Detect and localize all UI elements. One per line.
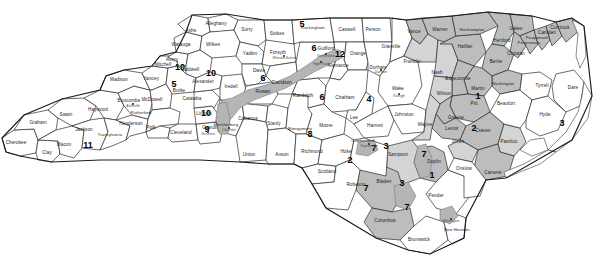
county-label: Vance [407,30,420,35]
county-label: Madison [110,78,128,83]
county-label: Warren [432,28,448,33]
city-marker-dot [132,103,134,105]
county-label: Duplin [427,160,441,165]
city-label: Raleigh [393,95,405,98]
district-number: 6 [311,44,316,53]
district-number: 1 [429,171,434,180]
city-label: Wilmington [443,220,460,223]
city-label: High Point [313,63,329,66]
county-label: Burke [173,89,186,94]
district-number: 7 [421,150,426,159]
county-label: Lee [350,116,358,121]
county-label: Macon [57,143,71,148]
county-label: Rowan [256,90,271,95]
county-label: Chowan [507,52,524,57]
county-label: Iredell [224,85,237,90]
county-label: Washington [492,82,514,86]
county-label: Hertford [493,39,510,44]
county-label: Alamance [327,64,348,69]
county-label: Bertie [490,60,503,65]
county-label: Pitt [470,102,477,107]
county-label: Craven [475,129,490,134]
district-number: 4 [366,95,371,104]
district-number: 8 [307,130,312,139]
district-number: 2 [471,124,476,133]
district-number: 2 [347,156,352,165]
city-marker-dot [368,143,370,145]
county-label: Haywood [88,108,108,113]
city-label: Gastonia [201,133,215,136]
county-label: Henderson [119,122,142,127]
city-label: Charlotte [222,129,236,132]
city-marker-dot [380,69,382,71]
county-label: Wilson [437,92,451,97]
county-label: Franklin [403,60,420,65]
county-johnston [388,104,426,134]
district-number: 7 [404,203,409,212]
county-label: Guilford [318,47,335,52]
district-number: 3 [559,119,564,128]
city-marker-dot [320,61,322,63]
county-label: McDowell [142,98,163,103]
county-label: Yadkin [243,52,257,57]
county-label: Currituck [550,26,569,31]
county-label: Greene [448,116,464,121]
county-rockingham [292,18,334,44]
city-marker-dot [325,53,327,55]
county-label: Catawba [183,97,202,102]
district-number: 5 [171,80,176,89]
county-label: Wake [392,87,404,92]
county-label: Cleveland [170,131,191,136]
county-label: Cherokee [6,141,27,146]
county-label: Cabarrus [238,117,258,122]
county-label: Halifax [458,45,473,50]
city-label: Greensboro [317,55,335,58]
county-label: Beaufort [497,102,515,107]
district-number: 10 [206,69,216,78]
county-label: Mitchell [155,63,171,68]
nc-congressional-district-map: CherokeeClayGrahamSwainMaconJacksonHaywo… [0,0,604,269]
county-label: Rockingham [301,26,325,30]
city-marker-dot [398,93,400,95]
county-label: Hyde [539,113,550,118]
county-label: New Hanover [444,228,470,232]
county-label: Davidson [272,81,292,86]
county-label: Graham [29,121,46,126]
city-label: Asheville [126,105,140,108]
county-label: Tyrrell [535,84,548,89]
county-label: Clay [42,151,52,156]
county-anson [266,128,296,164]
county-label: Columbus [374,219,395,224]
city-label: Durham [375,71,387,74]
county-label: Sampson [388,153,408,158]
county-label: Stanly [267,122,280,127]
district-number: 12 [335,50,345,59]
city-marker-dot [450,218,452,220]
district-number: 3 [399,179,404,188]
county-label: Harnett [367,124,383,129]
county-label: Alleghany [205,22,226,27]
county-label: Anson [275,153,289,158]
map-svg [0,0,604,269]
county-label: Chatham [335,96,354,101]
county-label: Person [365,28,380,33]
county-label: Wilkes [206,43,220,48]
district-number: 3 [383,142,388,151]
county-label: Orange [350,52,366,57]
county-label: Lenoir [445,127,458,132]
county-label: Randolph [293,94,313,99]
county-label: Edgecombe [445,77,470,82]
county-label: Jackson [75,128,93,133]
county-label: Scotland [318,170,337,175]
county-label: Nash [431,71,442,76]
district-number: 6 [260,74,265,83]
county-label: Granville [381,45,400,50]
county-label: Dare [568,86,578,91]
county-label: Caswell [339,28,356,33]
county-label: Carteret [484,171,501,176]
county-label: Polk [146,126,155,131]
district-number: 7 [363,184,368,193]
county-label: Mecklenburg [214,123,239,127]
county-label: Ashe [186,29,197,34]
county-label: Gates [510,27,523,32]
